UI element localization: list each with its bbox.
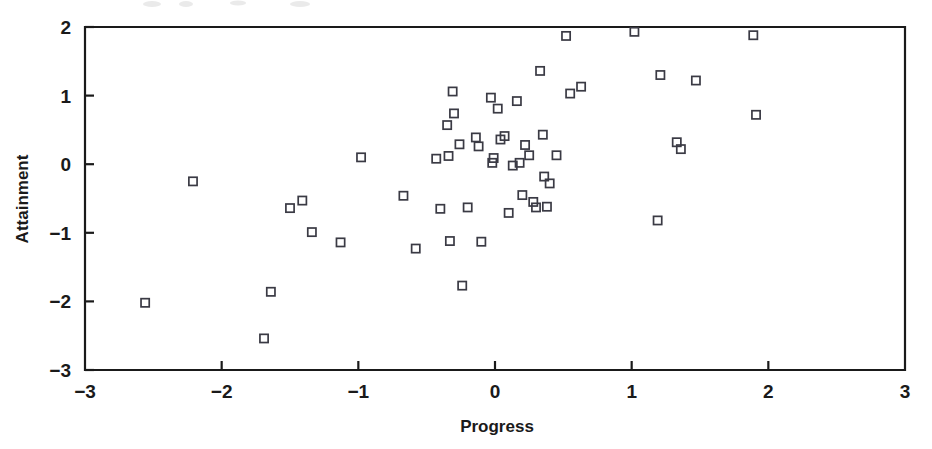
y-axis-title: Attainment [13, 154, 32, 243]
x-axis-title: Progress [460, 417, 534, 436]
x-tick-label: 3 [900, 381, 911, 402]
y-tick-label: 0 [60, 154, 71, 175]
x-tick-label: 2 [763, 381, 774, 402]
x-tick-label: −2 [211, 381, 233, 402]
y-tick-label: 2 [60, 17, 71, 38]
y-tick-label: −3 [49, 360, 71, 381]
scatter-plot-figure: −3−2−1012 −3−2−10123 Progress Attainment [0, 0, 932, 449]
y-tick-label: −1 [49, 223, 71, 244]
x-tick-label: −1 [347, 381, 369, 402]
plot-background [0, 0, 932, 449]
y-tick-label: −2 [49, 291, 71, 312]
x-tick-label: 0 [490, 381, 501, 402]
x-tick-label: −3 [74, 381, 96, 402]
x-tick-label: 1 [626, 381, 637, 402]
y-tick-label: 1 [60, 86, 71, 107]
scatter-plot-canvas: −3−2−1012 −3−2−10123 Progress Attainment [0, 0, 932, 449]
